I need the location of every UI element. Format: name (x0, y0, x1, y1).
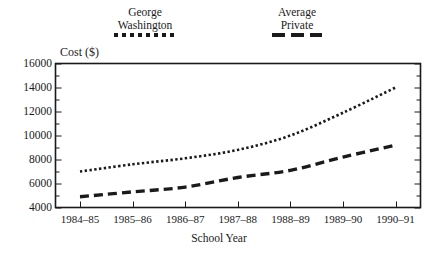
x-axis-tick-labels: 1984–851985–861986–871987–881988–891989–… (0, 214, 438, 230)
chart-figure: George Washington Average Private Cost (… (0, 0, 438, 254)
plot-frame (56, 64, 421, 208)
series-line-george-washington (80, 88, 396, 172)
x-axis-title: School Year (0, 232, 438, 244)
x-tick-label: 1990–91 (361, 214, 431, 225)
data-series-layer (80, 88, 396, 197)
series-line-average-private (80, 145, 396, 197)
axis-ticks (56, 64, 421, 208)
